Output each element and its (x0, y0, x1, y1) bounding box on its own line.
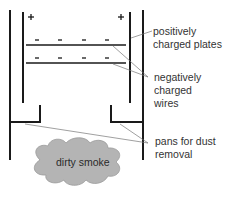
label-negatively-charged-wires: negatively charged wires (154, 71, 201, 110)
pan-right (111, 105, 143, 122)
leader-lines (25, 31, 152, 143)
pan-left (10, 105, 40, 122)
plate-charge-symbols (28, 14, 124, 20)
label-dirty-smoke: dirty smoke (56, 156, 110, 168)
label-positively-charged-plates: positively charged plates (153, 25, 222, 51)
label-pans-for-dust-removal: pans for dust removal (155, 135, 216, 161)
wire-charge-symbols (35, 40, 109, 58)
